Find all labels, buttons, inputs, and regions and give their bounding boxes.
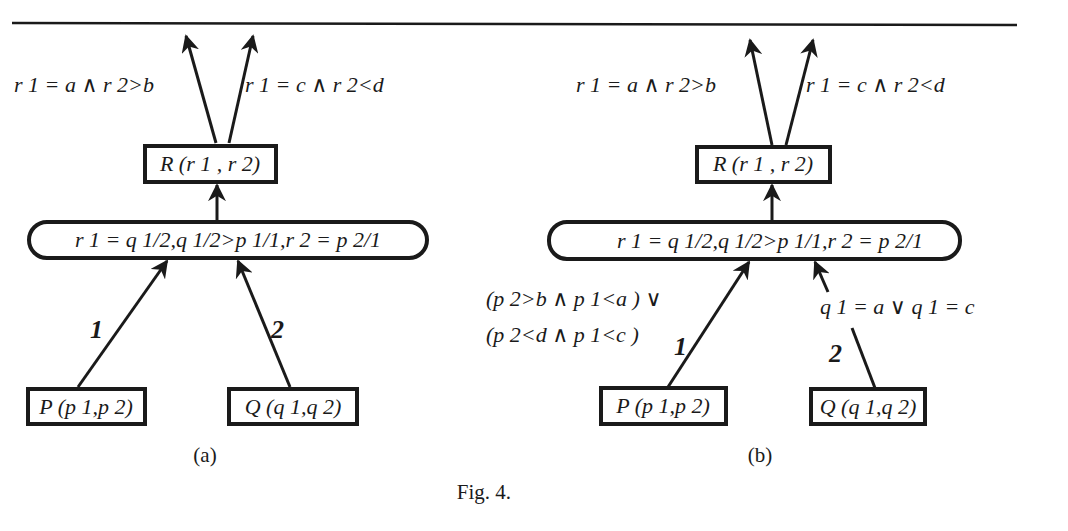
result-node-label: R (r 1 , r 2) [712, 151, 813, 176]
result-node-label: R (r 1 , r 2) [159, 151, 260, 176]
output-arrow-left-icon [186, 36, 216, 143]
edge-label-left: r 1 = a ∧ r 2>b [576, 72, 716, 97]
edge-label-left: r 1 = a ∧ r 2>b [14, 72, 154, 97]
figure-caption: Fig. 4. [457, 480, 511, 504]
panel-a-label: (a) [193, 443, 216, 467]
figure-4: r 1 = a ∧ r 2>b r 1 = c ∧ r 2<d R (r 1 ,… [0, 0, 1068, 531]
join-node-label: r 1 = q 1/2,q 1/2>p 1/1,r 2 = p 2/1 [75, 227, 381, 252]
panel-a: r 1 = a ∧ r 2>b r 1 = c ∧ r 2<d R (r 1 ,… [14, 36, 427, 467]
panel-b-label: (b) [748, 443, 773, 467]
edge-2-condition: q 1 = a ∨ q 1 = c [820, 294, 975, 319]
edge-1-condition-line-1: (p 2>b ∧ p 1<a ) ∨ [486, 286, 662, 311]
edge-2-line [852, 328, 875, 388]
input-node-p-label: P (p 1,p 2) [615, 393, 710, 418]
input-node-q-label: Q (q 1,q 2) [245, 394, 342, 419]
output-arrow-left-icon [750, 40, 772, 145]
edge-2-number: 2 [828, 339, 842, 368]
join-node-label: r 1 = q 1/2,q 1/2>p 1/1,r 2 = p 2/1 [617, 228, 923, 253]
edge-label-right: r 1 = c ∧ r 2<d [806, 72, 946, 97]
edge-2-number: 2 [270, 315, 284, 344]
panel-b: r 1 = a ∧ r 2>b r 1 = c ∧ r 2<d R (r 1 ,… [486, 40, 975, 467]
edge-1-number: 1 [674, 332, 687, 361]
edge-label-right: r 1 = c ∧ r 2<d [245, 72, 385, 97]
top-rule [12, 23, 1017, 25]
edge-1-number: 1 [90, 315, 103, 344]
input-node-q-label: Q (q 1,q 2) [820, 394, 917, 419]
edge-1-arrow-icon [668, 262, 749, 387]
edge-2-arrow-head-icon [815, 262, 828, 292]
input-node-p-label: P (p 1,p 2) [38, 394, 133, 419]
edge-1-condition-line-2: (p 2<d ∧ p 1<c ) [486, 322, 639, 347]
